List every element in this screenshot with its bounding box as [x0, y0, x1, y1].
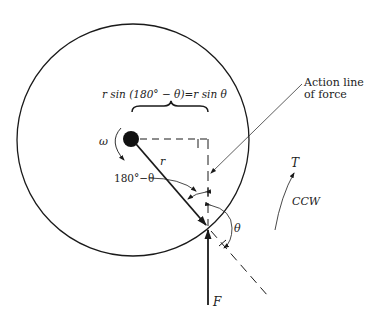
theta-angle-arc: [210, 205, 232, 248]
supplement-angle-label: 180°−θ: [114, 172, 154, 184]
action-line-label-cont: of force: [304, 88, 347, 101]
omega-label: ω: [99, 135, 108, 148]
radius-vector-arrow: [136, 144, 206, 225]
moment-arm-label: r sin (180° − θ)=r sin θ: [102, 88, 227, 100]
moment-arm-brace: [132, 101, 208, 112]
torque-diagram: r sin (180° − θ)=r sin θ ω r 180°−θ θ F …: [0, 0, 374, 319]
radius-extension-dashed: [211, 231, 268, 296]
theta-tick: [219, 240, 226, 246]
ccw-label: CCW: [292, 195, 322, 208]
force-label: F: [212, 295, 222, 309]
omega-rotation-arrow: [115, 128, 124, 160]
supplement-angle-arc: [188, 192, 206, 199]
supplement-angle-leader: [149, 178, 196, 191]
torque-label: T: [291, 156, 300, 170]
radius-label: r: [160, 155, 166, 168]
theta-label: θ: [234, 222, 241, 235]
